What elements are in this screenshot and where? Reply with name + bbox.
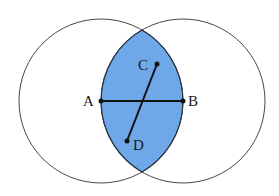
- point-c: [155, 62, 160, 67]
- point-a: [99, 99, 104, 104]
- point-d: [125, 139, 130, 144]
- point-b: [181, 99, 186, 104]
- label-c: C: [138, 57, 148, 73]
- diagram-canvas: A B C D: [0, 0, 279, 196]
- label-a: A: [83, 93, 94, 109]
- label-b: B: [188, 93, 198, 109]
- label-d: D: [133, 137, 144, 153]
